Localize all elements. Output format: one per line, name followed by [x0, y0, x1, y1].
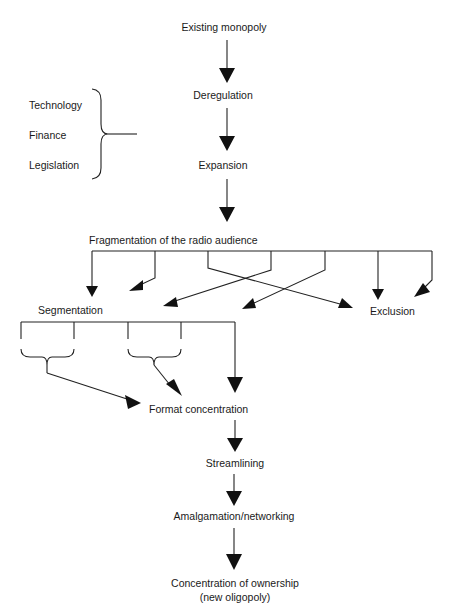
arrow-monopoly-to-deregulation: [219, 40, 235, 83]
node-fragmentation: Fragmentation of the radio audience: [89, 234, 258, 246]
driver-legislation: Legislation: [29, 159, 79, 171]
driver-technology: Technology: [29, 99, 83, 111]
radio-market-flow-diagram: Existing monopoly Deregulation Expansion…: [0, 0, 456, 615]
node-existing-monopoly: Existing monopoly: [181, 21, 267, 33]
node-exclusion: Exclusion: [370, 305, 415, 317]
node-segmentation: Segmentation: [38, 304, 103, 316]
node-amalgamation: Amalgamation/networking: [174, 510, 295, 522]
arrow-deregulation-to-expansion: [219, 108, 235, 151]
fragmentation-branches: [86, 251, 432, 309]
node-concentration-oligopoly: (new oligopoly): [200, 591, 271, 603]
arrow-streamlining-to-amalgamation: [226, 474, 242, 506]
arrow-format-to-streamlining: [227, 420, 243, 452]
node-deregulation: Deregulation: [193, 89, 253, 101]
driver-finance: Finance: [29, 129, 67, 141]
node-concentration-ownership: Concentration of ownership: [171, 577, 299, 589]
node-streamlining: Streamlining: [206, 457, 265, 469]
node-expansion: Expansion: [198, 159, 247, 171]
drivers-brace: [92, 89, 137, 179]
arrow-expansion-to-fragmentation: [219, 179, 235, 222]
segmentation-branches: [21, 322, 243, 409]
arrow-amalgamation-to-concentration: [226, 528, 242, 570]
node-format-concentration: Format concentration: [149, 403, 248, 415]
